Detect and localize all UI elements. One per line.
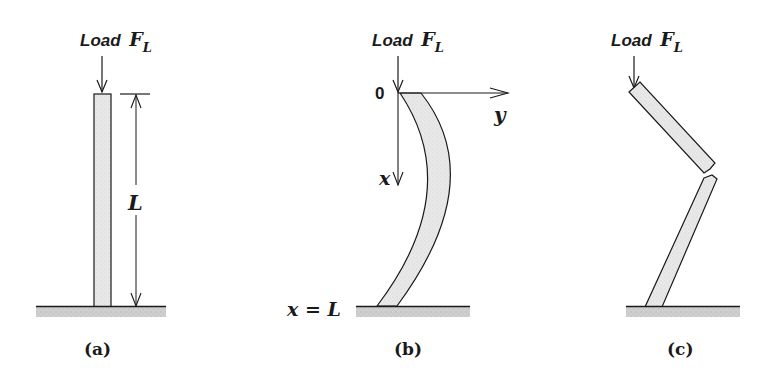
column-buckling-figure: Load FL L (a) Load FL	[0, 0, 770, 383]
load-label: Load FL	[611, 28, 683, 55]
caption-a: (a)	[84, 339, 111, 359]
ground	[36, 307, 166, 318]
load-arrow-icon	[97, 56, 107, 92]
panel-b: Load FL 0 y x x = L (b)	[286, 28, 508, 359]
x-axis-arrow-icon	[393, 92, 403, 185]
caption-b: (b)	[394, 339, 422, 359]
length-dimension: L	[120, 94, 150, 306]
x-axis-label: x	[378, 167, 391, 189]
caption-c: (c)	[667, 339, 693, 359]
straight-column	[94, 94, 111, 307]
ground	[626, 307, 740, 318]
length-label: L	[127, 190, 143, 215]
y-axis-label: y	[493, 103, 507, 127]
load-arrow-icon	[629, 56, 639, 88]
base-label: x = L	[286, 298, 341, 320]
panel-a: Load FL L (a)	[36, 28, 166, 359]
load-label: Load FL	[372, 28, 444, 55]
panel-c: Load FL (c)	[611, 28, 740, 359]
origin-label: 0	[375, 84, 384, 103]
ground	[356, 307, 470, 318]
load-label: Load FL	[80, 28, 152, 55]
buckled-column	[377, 93, 450, 306]
lower-column-segment	[645, 175, 717, 307]
load-arrow-icon	[393, 56, 403, 92]
upper-column-segment	[629, 82, 715, 173]
